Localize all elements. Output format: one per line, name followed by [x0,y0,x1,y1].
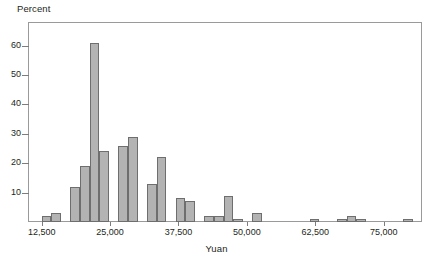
histogram-bar [252,213,262,222]
y-axis-tick [22,104,29,105]
x-axis-tick [315,222,316,226]
histogram-bar [176,198,186,222]
x-axis-tick [42,222,43,226]
x-axis-tick-label: 75,000 [370,227,398,238]
y-axis-tick [22,75,29,76]
y-axis-tick-label: 40 [1,99,21,108]
histogram-bar [118,146,128,222]
y-axis-tick-label: 50 [1,70,21,79]
x-axis-title: Yuan [0,243,433,254]
y-axis-tick-label: 60 [1,41,21,50]
y-axis-title: Percent [17,3,50,14]
histogram-bar [90,43,100,222]
x-axis-tick-label: 50,000 [233,227,261,238]
y-axis-tick [22,163,29,164]
y-axis-tick [22,134,29,135]
y-axis-tick [22,193,29,194]
y-axis-tick-label: 20 [1,158,21,167]
bars-layer [28,22,422,222]
histogram-bar [224,196,234,222]
x-axis-tick-label: 62,500 [302,227,330,238]
x-axis-tick [110,222,111,226]
y-axis-tick-label: 10 [1,188,21,197]
histogram-bar [42,216,52,222]
histogram-bar [356,219,366,222]
histogram-bar [185,201,195,222]
histogram-bar [337,219,347,222]
histogram-bar [147,184,157,222]
histogram-bar [157,157,167,222]
histogram-bar [233,219,243,222]
histogram-bar [347,216,357,222]
y-axis-tick [22,46,29,47]
histogram-bar [51,213,61,222]
x-axis-tick [178,222,179,226]
histogram-bar [204,216,214,222]
y-axis-tick-label: 30 [1,129,21,138]
x-axis-tick-label: 12,500 [28,227,56,238]
x-axis-tick-label: 37,500 [165,227,193,238]
histogram-chart: Percent 102030405060 12,50025,00037,5005… [0,0,433,264]
x-axis-tick [247,222,248,226]
histogram-bar [99,151,109,222]
histogram-bar [403,219,413,222]
histogram-bar [214,216,224,222]
histogram-bar [128,137,138,222]
x-axis-tick [384,222,385,226]
histogram-bar [70,187,80,222]
x-axis-tick-label: 25,000 [96,227,124,238]
histogram-bar [80,166,90,222]
